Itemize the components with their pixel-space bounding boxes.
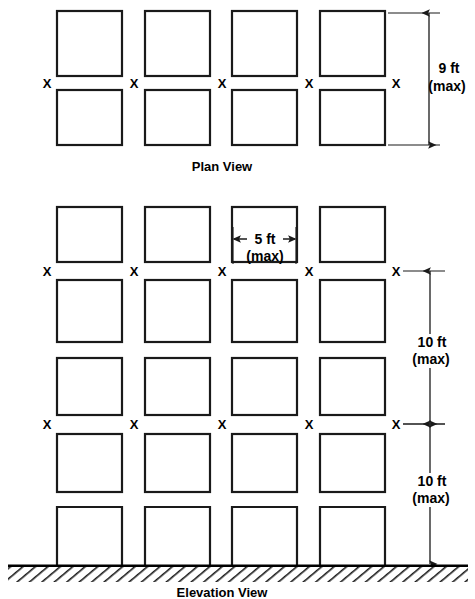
- dimension-qualifier: (max): [412, 351, 449, 367]
- plan-panel-row-2: [57, 90, 385, 145]
- x-mark: X: [43, 264, 52, 279]
- x-mark: X: [392, 417, 401, 432]
- elevation-panel: [145, 207, 210, 262]
- elevation-panel: [57, 207, 122, 262]
- plan-panel: [145, 11, 210, 76]
- x-mark: X: [218, 417, 227, 432]
- x-mark: X: [130, 417, 139, 432]
- elevation-panel: [145, 358, 210, 415]
- dimension-value: 10 ft: [418, 334, 447, 350]
- plan-panel: [232, 90, 297, 145]
- elevation-panel: [57, 280, 122, 342]
- elevation-panel: [320, 434, 385, 492]
- elevation-panel: [232, 280, 297, 342]
- plan-panel: [320, 90, 385, 145]
- elevation-panel-row-5: [57, 507, 385, 566]
- dimension-qualifier: (max): [246, 248, 283, 264]
- x-mark: X: [43, 76, 52, 91]
- figure-svg: X X X X X 9 ft (max) Plan View: [0, 0, 475, 599]
- dimension-value: 5 ft: [255, 231, 276, 247]
- plan-panel: [232, 11, 297, 76]
- elevation-panel: [320, 207, 385, 262]
- plan-x-marks: X X X X X: [43, 76, 401, 91]
- elevation-x-marks-upper: X X X X X: [43, 264, 401, 279]
- x-mark: X: [392, 264, 401, 279]
- x-mark: X: [130, 76, 139, 91]
- plan-panel-row-1: [57, 11, 385, 76]
- plan-panel: [145, 90, 210, 145]
- elevation-panel-ground: [145, 507, 210, 566]
- ground: [8, 566, 468, 582]
- elevation-panel: [320, 280, 385, 342]
- elevation-panel-row-1: [57, 207, 385, 262]
- x-mark: X: [218, 264, 227, 279]
- x-mark: X: [305, 417, 314, 432]
- elevation-panel: [232, 434, 297, 492]
- x-mark: X: [218, 76, 227, 91]
- elevation-panel: [57, 358, 122, 415]
- x-mark: X: [305, 76, 314, 91]
- elevation-view-label: Elevation View: [177, 585, 269, 599]
- technical-drawing: X X X X X 9 ft (max) Plan View: [0, 0, 475, 599]
- x-mark: X: [43, 417, 52, 432]
- plan-panel: [320, 11, 385, 76]
- plan-view-group: X X X X X 9 ft (max) Plan View: [43, 11, 466, 174]
- elevation-panel-ground: [320, 507, 385, 566]
- elevation-panel-row-4: [57, 434, 385, 492]
- plan-panel: [57, 11, 122, 76]
- dimension-qualifier: (max): [412, 490, 449, 506]
- elevation-x-marks-lower: X X X X X: [43, 417, 401, 432]
- elevation-panel: [145, 434, 210, 492]
- dimension-value: 9 ft: [439, 60, 460, 76]
- elevation-panel: [232, 358, 297, 415]
- elevation-panel-ground: [232, 507, 297, 566]
- dimension-value: 10 ft: [418, 473, 447, 489]
- x-mark: X: [305, 264, 314, 279]
- x-mark: X: [130, 264, 139, 279]
- plan-panel: [57, 90, 122, 145]
- elevation-panel: [320, 358, 385, 415]
- plan-view-label: Plan View: [192, 159, 253, 174]
- elevation-view-group: 5 ft (max) X X X X X: [8, 207, 468, 599]
- elevation-panel: [57, 434, 122, 492]
- elevation-height-dimension-1: 10 ft (max): [403, 271, 460, 424]
- x-mark: X: [392, 76, 401, 91]
- elevation-panel-row-2: [57, 280, 385, 342]
- dimension-qualifier: (max): [428, 78, 465, 94]
- elevation-panel: [145, 280, 210, 342]
- elevation-panel-row-3: [57, 358, 385, 415]
- elevation-height-dimension-2: 10 ft (max): [403, 424, 460, 564]
- ground-hatch: [8, 567, 468, 582]
- elevation-panel-ground: [57, 507, 122, 566]
